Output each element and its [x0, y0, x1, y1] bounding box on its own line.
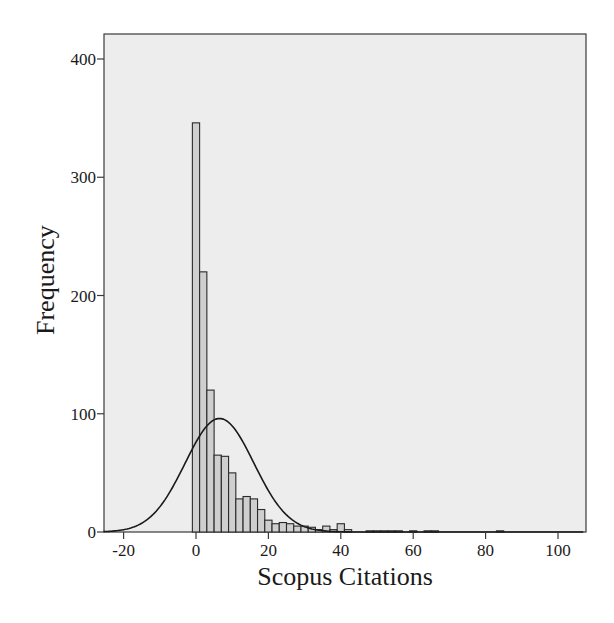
histogram-bar	[243, 497, 250, 532]
x-axis: -20020406080100	[112, 532, 570, 560]
plot-area	[104, 34, 586, 532]
histogram-bar	[214, 455, 221, 532]
x-axis-title: Scopus Citations	[104, 562, 586, 592]
histogram-bar	[236, 499, 243, 532]
y-tick-label: 300	[71, 168, 97, 187]
histogram-bar	[337, 524, 344, 532]
y-tick-label: 200	[71, 287, 97, 306]
histogram-bar	[207, 390, 214, 532]
x-tick-label: -20	[112, 541, 135, 560]
histogram-bar	[279, 523, 286, 532]
x-tick-label: 80	[477, 541, 494, 560]
x-tick-label: 20	[260, 541, 277, 560]
histogram-bar	[200, 272, 207, 532]
histogram-bar	[250, 499, 257, 532]
histogram-bar	[272, 524, 279, 532]
y-tick-label: 400	[71, 50, 97, 69]
histogram-chart: 0100200300400 -20020406080100	[0, 0, 614, 623]
histogram-bar	[229, 473, 236, 532]
x-tick-label: 0	[192, 541, 201, 560]
x-tick-label: 60	[405, 541, 422, 560]
y-axis: 0100200300400	[71, 50, 105, 542]
histogram-bar	[258, 510, 265, 532]
y-axis-title: Frequency	[31, 255, 61, 335]
histogram-bar	[192, 123, 199, 532]
histogram-bar	[294, 526, 301, 532]
histogram-bar	[221, 456, 228, 532]
y-tick-label: 0	[88, 523, 97, 542]
x-tick-label: 40	[332, 541, 349, 560]
histogram-bar	[287, 524, 294, 532]
x-tick-label: 100	[545, 541, 571, 560]
histogram-bar	[265, 520, 272, 532]
y-tick-label: 100	[71, 405, 97, 424]
